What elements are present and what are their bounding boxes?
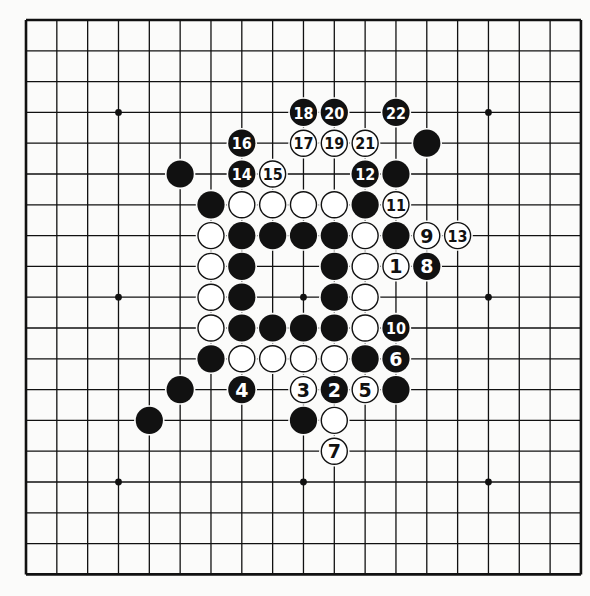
move-number: 21 <box>355 134 375 153</box>
black-stone <box>227 220 257 250</box>
black-stone <box>257 220 287 250</box>
white-stone: 7 <box>319 436 349 466</box>
white-stone <box>196 220 226 250</box>
go-board[interactable]: 18202216171921141512119131810643257 <box>0 0 590 596</box>
white-stone <box>288 344 318 374</box>
black-stone: 10 <box>381 313 411 343</box>
white-stone <box>227 344 257 374</box>
star-point <box>300 294 307 301</box>
white-stone <box>350 220 380 250</box>
white-stone: 9 <box>412 220 442 250</box>
move-number: 15 <box>263 165 283 184</box>
white-stone: 17 <box>288 128 318 158</box>
black-stone <box>288 220 318 250</box>
move-number: 9 <box>420 225 433 247</box>
star-point <box>300 479 307 486</box>
white-stone: 15 <box>257 159 287 189</box>
move-number: 6 <box>389 348 402 370</box>
black-stone <box>196 190 226 220</box>
white-stone <box>350 251 380 281</box>
black-stone <box>319 313 349 343</box>
black-stone: 8 <box>412 251 442 281</box>
black-stone <box>165 374 195 404</box>
move-number: 20 <box>324 104 344 123</box>
black-stone <box>288 405 318 435</box>
move-number: 3 <box>297 379 310 401</box>
black-stone: 20 <box>319 97 349 127</box>
black-stone <box>134 405 164 435</box>
black-stone: 18 <box>288 97 318 127</box>
black-stone <box>227 313 257 343</box>
white-stone <box>227 190 257 220</box>
move-number: 17 <box>293 134 313 153</box>
star-point <box>485 479 492 486</box>
move-number: 22 <box>386 104 406 123</box>
white-stone <box>288 190 318 220</box>
move-number: 13 <box>448 227 468 246</box>
black-stone: 4 <box>227 374 257 404</box>
black-stone <box>381 159 411 189</box>
move-number: 2 <box>328 379 341 401</box>
white-stone: 13 <box>442 220 472 250</box>
white-stone <box>319 190 349 220</box>
white-stone: 11 <box>381 190 411 220</box>
black-stone <box>288 313 318 343</box>
move-number: 16 <box>232 134 252 153</box>
white-stone: 3 <box>288 374 318 404</box>
star-point <box>115 109 122 116</box>
black-stone: 12 <box>350 159 380 189</box>
move-number: 14 <box>232 165 252 184</box>
black-stone <box>257 313 287 343</box>
black-stone: 22 <box>381 97 411 127</box>
black-stone: 16 <box>227 128 257 158</box>
move-number: 4 <box>235 379 248 401</box>
black-stone <box>319 251 349 281</box>
star-point <box>115 294 122 301</box>
move-number: 7 <box>328 440 341 462</box>
white-stone <box>319 344 349 374</box>
white-stone <box>257 344 287 374</box>
white-stone <box>196 251 226 281</box>
move-number: 10 <box>386 319 406 338</box>
move-number: 8 <box>420 255 433 277</box>
white-stone <box>350 282 380 312</box>
white-stone: 5 <box>350 374 380 404</box>
white-stone <box>257 190 287 220</box>
move-number: 11 <box>386 196 406 215</box>
black-stone <box>196 344 226 374</box>
black-stone <box>381 374 411 404</box>
move-number: 19 <box>324 134 344 153</box>
black-stone <box>350 190 380 220</box>
white-stone: 1 <box>381 251 411 281</box>
black-stone <box>319 282 349 312</box>
white-stone <box>319 405 349 435</box>
star-point <box>485 109 492 116</box>
black-stone <box>412 128 442 158</box>
white-stone <box>196 313 226 343</box>
black-stone: 14 <box>227 159 257 189</box>
black-stone <box>381 220 411 250</box>
star-point <box>115 479 122 486</box>
black-stone: 2 <box>319 374 349 404</box>
black-stone <box>350 344 380 374</box>
move-number: 5 <box>359 379 372 401</box>
white-stone: 19 <box>319 128 349 158</box>
black-stone <box>165 159 195 189</box>
move-number: 1 <box>389 255 402 277</box>
white-stone <box>196 282 226 312</box>
move-number: 12 <box>355 165 375 184</box>
move-number: 18 <box>293 104 313 123</box>
black-stone <box>319 220 349 250</box>
black-stone: 6 <box>381 344 411 374</box>
white-stone <box>350 313 380 343</box>
black-stone <box>227 251 257 281</box>
white-stone: 21 <box>350 128 380 158</box>
black-stone <box>227 282 257 312</box>
star-point <box>485 294 492 301</box>
